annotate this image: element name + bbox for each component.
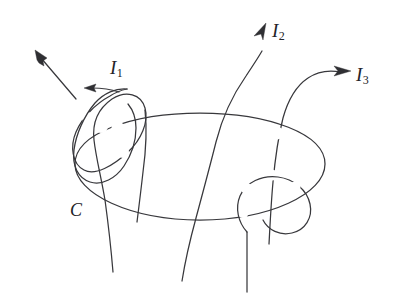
figure-canvas: I1 I2 I3 C — [0, 0, 398, 302]
current-i3-loop — [238, 177, 311, 234]
label-current-i1-sub: 1 — [117, 66, 123, 80]
label-current-i1: I1 — [110, 58, 123, 79]
label-current-i3-base: I — [356, 64, 362, 85]
current-i2-arrow — [254, 23, 266, 40]
current-i1-arrow-long — [35, 50, 76, 99]
label-current-i1-base: I — [110, 57, 116, 78]
label-current-i3-sub: 3 — [363, 73, 369, 87]
current-i2-curve — [182, 51, 262, 281]
diagram-svg — [0, 0, 398, 302]
label-current-i2-base: I — [272, 20, 278, 41]
label-current-i3: I3 — [356, 65, 369, 86]
label-loop-c: C — [70, 201, 83, 221]
current-i1-arrow-short — [84, 84, 119, 92]
label-current-i2-sub: 2 — [279, 29, 285, 43]
current-i3-curve — [269, 71, 341, 244]
label-current-i2: I2 — [272, 21, 285, 42]
label-loop-c-base: C — [70, 200, 82, 220]
